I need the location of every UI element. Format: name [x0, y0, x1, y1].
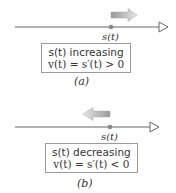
box-line1: s(t) increasing	[48, 46, 124, 58]
caption-b: (b)	[77, 177, 93, 190]
label-box-a: s(t) increasing v(t) = s′(t) > 0	[41, 43, 131, 73]
box-line2: v(t) = s′(t) > 0	[48, 58, 124, 70]
position-dot	[108, 125, 113, 130]
box-line2: v(t) = s′(t) < 0	[52, 158, 131, 170]
caption-a: (a)	[74, 75, 89, 88]
position-label-a: s(t)	[102, 31, 119, 42]
number-line-b	[0, 107, 176, 137]
number-line-a	[0, 8, 176, 38]
motion-arrow-right-icon	[111, 9, 137, 22]
position-dot	[109, 25, 114, 30]
position-label-b: s(t)	[101, 131, 118, 142]
label-box-b: s(t) decreasing v(t) = s′(t) < 0	[45, 143, 138, 173]
axis-arrowhead-icon	[150, 122, 159, 132]
box-line1: s(t) decreasing	[52, 146, 131, 158]
axis-arrowhead-icon	[159, 22, 168, 32]
motion-arrow-left-icon	[83, 108, 110, 121]
